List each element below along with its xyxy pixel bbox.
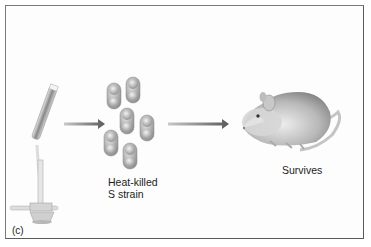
test-tube-icon <box>31 84 58 140</box>
mouse-icon <box>242 92 340 150</box>
diplococcus-icon <box>120 108 134 134</box>
arrow-to-bacteria-icon <box>64 119 105 129</box>
diplococcus-icon <box>107 83 121 109</box>
bacteria-label: Heat-killed S strain <box>108 176 158 200</box>
diagram-artwork <box>0 0 371 247</box>
diplococcus-icon <box>104 130 118 156</box>
diplococcus-icon <box>140 115 154 141</box>
panel-label: (c) <box>12 225 24 237</box>
bunsen-burner-icon <box>10 145 58 224</box>
arrow-to-mouse-icon <box>168 119 229 129</box>
diplococcus-icon <box>123 143 137 169</box>
diplococcus-icon <box>126 77 140 103</box>
bacteria-label-line1: Heat-killed <box>108 176 158 188</box>
mouse-outcome-label: Survives <box>282 164 322 176</box>
bacteria-cluster-icon <box>104 77 154 169</box>
bacteria-label-line2: S strain <box>108 188 158 200</box>
